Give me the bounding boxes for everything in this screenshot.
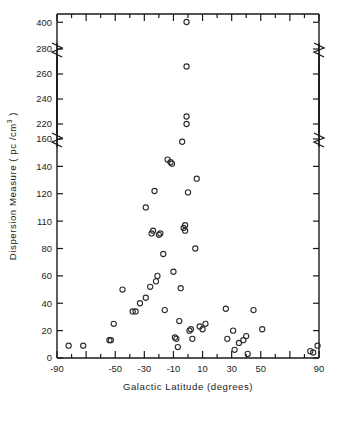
data-point xyxy=(245,351,250,356)
data-point xyxy=(231,328,236,333)
data-point xyxy=(203,321,208,326)
data-point xyxy=(172,335,177,340)
axis-break-zigzag xyxy=(314,43,324,57)
data-point xyxy=(120,287,125,292)
data-point xyxy=(193,246,198,251)
data-point xyxy=(111,321,116,326)
x-tick-label: -90 xyxy=(50,363,64,374)
plot-canvas: 020406080110120140160220240260280400-90-… xyxy=(0,0,341,424)
data-point xyxy=(81,343,86,348)
data-point xyxy=(184,121,189,126)
x-tick-label: 30 xyxy=(226,363,236,374)
data-point xyxy=(251,307,256,312)
data-point xyxy=(66,343,71,348)
data-point xyxy=(158,231,163,236)
y-tick-label: 160 xyxy=(36,133,52,144)
y-tick-label: 260 xyxy=(36,68,52,79)
data-point xyxy=(148,284,153,289)
data-point xyxy=(169,161,174,166)
data-point xyxy=(178,286,183,291)
data-point xyxy=(184,64,189,69)
y-tick-label: 280 xyxy=(36,43,52,54)
data-point xyxy=(174,336,179,341)
y-tick-label: 20 xyxy=(42,325,52,336)
y-tick-label: 60 xyxy=(42,270,52,281)
data-point xyxy=(156,232,161,237)
data-point xyxy=(190,336,195,341)
x-tick-label: -30 xyxy=(138,363,152,374)
x-tick-label: -10 xyxy=(167,363,181,374)
data-point xyxy=(194,176,199,181)
data-point xyxy=(161,251,166,256)
data-point xyxy=(177,318,182,323)
data-point xyxy=(175,344,180,349)
data-point xyxy=(188,327,193,332)
data-point xyxy=(225,336,230,341)
axis-break-zigzag xyxy=(52,43,62,57)
x-axis-title: Galactic Latitude (degrees) xyxy=(123,381,253,392)
data-point xyxy=(260,327,265,332)
y-tick-label: 0 xyxy=(47,352,52,363)
data-point xyxy=(162,307,167,312)
y-tick-label: 110 xyxy=(37,216,52,227)
y-tick-label: 120 xyxy=(36,188,52,199)
data-point xyxy=(137,301,142,306)
y-tick-label: 40 xyxy=(42,298,52,309)
y-tick-label: 400 xyxy=(36,17,52,28)
y-tick-label: 220 xyxy=(36,118,52,129)
data-point xyxy=(185,190,190,195)
data-point xyxy=(171,269,176,274)
data-point xyxy=(232,347,237,352)
data-point xyxy=(155,273,160,278)
axis-break-zigzag xyxy=(52,133,62,147)
data-point xyxy=(143,295,148,300)
data-point xyxy=(184,114,189,119)
data-point xyxy=(153,279,158,284)
x-tick-label: 50 xyxy=(256,363,266,374)
data-point xyxy=(223,306,228,311)
x-tick-label: -50 xyxy=(108,363,122,374)
y-tick-label: 80 xyxy=(42,243,52,254)
y-tick-label: 140 xyxy=(36,161,52,172)
scatter-plot-figure: 020406080110120140160220240260280400-90-… xyxy=(0,0,341,424)
data-point xyxy=(143,205,148,210)
y-axis-title: Dispersion Measure ( pc /cm3 ) xyxy=(6,112,18,260)
x-tick-label: 90 xyxy=(314,363,324,374)
data-point xyxy=(184,19,189,24)
axis-break-zigzag xyxy=(314,133,324,147)
y-axis-title-text: Dispersion Measure ( pc /cm3 ) xyxy=(6,112,18,260)
data-point xyxy=(187,328,192,333)
data-point xyxy=(244,334,249,339)
data-point xyxy=(152,188,157,193)
data-point xyxy=(180,139,185,144)
y-tick-label: 240 xyxy=(36,93,52,104)
x-tick-label: 10 xyxy=(197,363,207,374)
